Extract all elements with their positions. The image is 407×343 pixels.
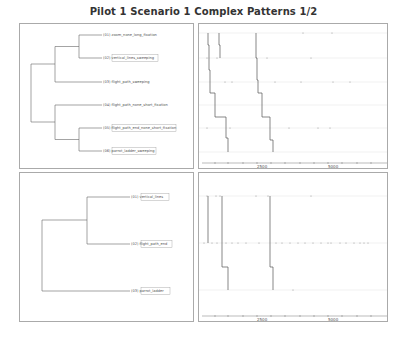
- top-traces: [208, 33, 273, 152]
- leaf-label: (01) zoom_none_long_fixation: [103, 33, 157, 37]
- x-tick-label: 5000: [328, 164, 339, 169]
- bottom-dendrogram: [42, 197, 130, 291]
- x-tick-label: 2500: [257, 317, 268, 322]
- figure-canvas: (01) zoom_none_long_fixation (02) vertic…: [0, 0, 407, 343]
- x-tick-label: 2500: [257, 164, 268, 169]
- x-tick-label: 5000: [328, 317, 339, 322]
- leaf-label: (05) flight_path_end_none_short_fixation: [103, 126, 176, 130]
- bottom-row-gridlines: [199, 196, 387, 290]
- leaf-label: (02) flight_path_end: [131, 242, 167, 246]
- leaf-label: (02) vertical_lines_sweeping: [103, 56, 154, 60]
- top-event-dots: [207, 33, 351, 129]
- leaf-label: (03) flight_path_sweeping: [103, 80, 150, 84]
- leaf-label: (01) vertical_lines: [131, 195, 163, 199]
- top-x-axis: [202, 162, 387, 164]
- bottom-x-axis: [202, 315, 387, 317]
- top-row-gridlines: [199, 33, 387, 152]
- leaf-label: (06) parrot_ladder_sweeping: [103, 149, 155, 153]
- top-dendrogram: [31, 35, 102, 151]
- leaf-label: (04) flight_path_none_short_fixation: [103, 103, 168, 107]
- leaf-label: (03) parrot_ladder: [131, 289, 164, 293]
